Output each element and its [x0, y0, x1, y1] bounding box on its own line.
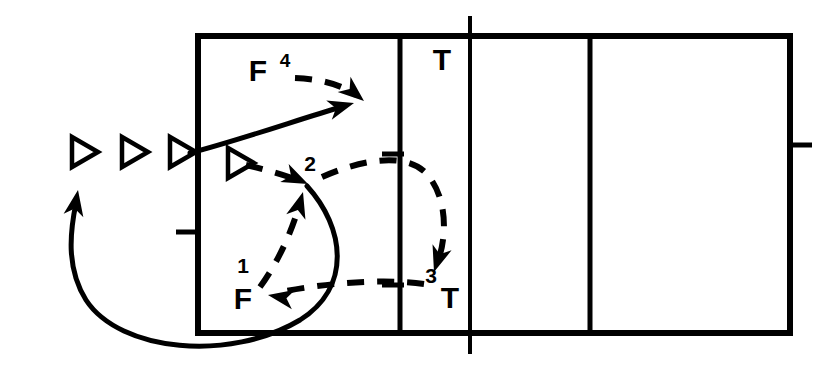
player-triangle-1-glyph: [72, 137, 98, 167]
court-boundary: [198, 36, 790, 333]
player-triangle-4-glyph: [228, 148, 254, 178]
path-set-up-to-2-dashed: [260, 189, 313, 287]
court-diagram-canvas: F4213FTT: [0, 0, 836, 374]
movement-paths-group: [64, 77, 452, 347]
path-pass-to-2-dashed: [246, 164, 312, 193]
player-triangle-4: [228, 148, 254, 178]
label-2: 2: [304, 152, 316, 175]
player-triangle-2-glyph: [122, 137, 148, 167]
label-T-bottom: T: [441, 281, 459, 314]
path-set-up-to-2-dashed-arrowhead: [286, 189, 312, 220]
label-F-top: F: [249, 54, 267, 87]
label-4-superscript: 4: [280, 50, 291, 71]
label-3: 3: [425, 264, 437, 287]
path-approach-solid-arrowhead: [326, 93, 357, 119]
path-2-to-3-dashed: [322, 160, 452, 275]
path-set-up-to-2-dashed-stroke: [260, 203, 300, 287]
player-triangle-3-glyph: [170, 137, 196, 167]
path-2-to-3-dashed-stroke: [322, 160, 444, 261]
court-ticks-group: [176, 145, 812, 285]
label-F-bottom: F: [234, 282, 252, 315]
court-diagram: F4213FTT: [0, 0, 836, 374]
label-1: 1: [237, 254, 249, 277]
player-triangle-3: [170, 137, 196, 167]
player-triangle-2: [122, 137, 148, 167]
label-T-top: T: [433, 43, 451, 76]
path-approach-solid-stroke: [190, 107, 341, 153]
player-triangle-1: [72, 137, 98, 167]
path-approach-solid: [190, 93, 357, 153]
